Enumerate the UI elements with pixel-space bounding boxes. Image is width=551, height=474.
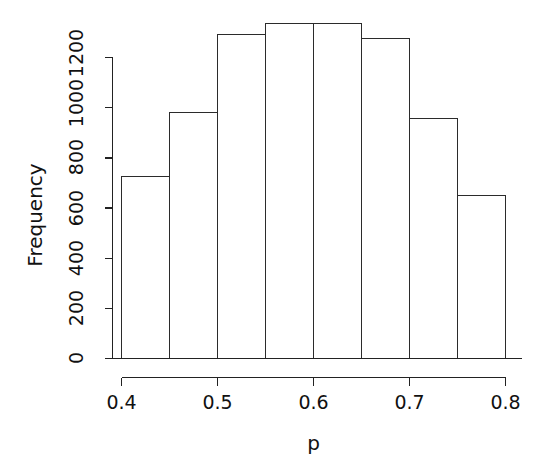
y-tick-label-1200: 1200 [65,29,87,77]
y-axis-title: Frequency [23,163,47,266]
x-tick-label-0-4: 0.4 [106,391,136,413]
x-tick-label-0-5: 0.5 [202,391,232,413]
histogram-plot: Frequency 0 200 400 600 800 1000 1200 [0,0,551,474]
y-tick-label-200: 200 [65,290,87,326]
x-tick-label-0-8: 0.8 [490,391,520,413]
y-tick-label-0: 0 [65,352,87,364]
x-tick-label-0-6: 0.6 [298,391,328,413]
y-tick-label-800: 800 [65,139,87,175]
x-axis-title: p [307,431,320,455]
histogram-bar [218,34,266,358]
histogram-bar [410,118,458,358]
histogram-svg: Frequency 0 200 400 600 800 1000 1200 [0,0,551,474]
y-tick-label-400: 400 [65,240,87,276]
histogram-bar [314,23,362,358]
histogram-bar [458,195,506,358]
x-tick-label-0-7: 0.7 [394,391,424,413]
histogram-bar [122,176,170,358]
histogram-bar [170,112,218,358]
y-tick-label-1000: 1000 [65,79,87,127]
histogram-bar [362,38,410,358]
y-tick-label-600: 600 [65,190,87,226]
histogram-bar [266,23,314,358]
